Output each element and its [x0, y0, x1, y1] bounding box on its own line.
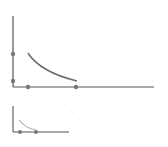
- main-y-marker-lower: [11, 79, 15, 83]
- main-x-marker-right: [74, 85, 78, 89]
- main-chart: [11, 16, 154, 89]
- main-curve: [28, 53, 77, 81]
- inset-faint-mark: [70, 111, 74, 113]
- inset-x-marker-left: [18, 130, 22, 134]
- main-x-marker-left: [26, 85, 30, 89]
- inset-x-marker-right: [34, 130, 38, 134]
- inset-chart: [13, 106, 74, 134]
- inset-curve: [19, 120, 36, 130]
- diagram-canvas: [0, 0, 168, 147]
- main-y-marker-upper: [11, 52, 15, 56]
